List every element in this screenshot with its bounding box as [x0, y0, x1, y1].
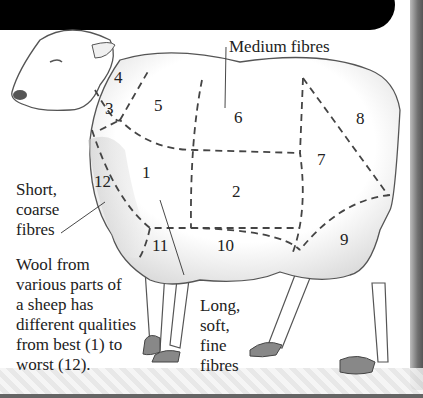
caption-line-6: worst (12). [16, 355, 136, 375]
region-8: 8 [356, 109, 365, 129]
long-line-3: fine [200, 336, 240, 356]
short-line-1: Short, [16, 180, 59, 200]
label-medium-fibres: Medium fibres [229, 38, 330, 55]
region-4: 4 [114, 68, 123, 88]
region-1: 1 [142, 163, 151, 183]
long-line-2: soft, [200, 316, 240, 336]
caption-line-5: from best (1) to [16, 335, 136, 355]
label-long-soft-fine-fibres: Long, soft, fine fibres [200, 296, 240, 376]
sheep-head [12, 30, 114, 110]
region-3: 3 [105, 99, 114, 119]
caption-line-4: different qualities [16, 315, 136, 335]
short-line-3: fibres [16, 220, 59, 240]
long-line-1: Long, [200, 296, 240, 316]
caption-line-2: various parts of [16, 275, 136, 295]
region-10: 10 [217, 236, 234, 256]
caption-line-1: Wool from [16, 255, 136, 275]
region-9: 9 [340, 230, 349, 250]
region-11: 11 [152, 236, 168, 256]
region-7: 7 [317, 150, 326, 170]
region-12: 12 [94, 172, 111, 192]
long-line-4: fibres [200, 356, 240, 376]
region-2: 2 [232, 182, 241, 202]
caption-line-3: a sheep has [16, 295, 136, 315]
region-6: 6 [234, 108, 243, 128]
region-5: 5 [154, 96, 163, 116]
short-line-2: coarse [16, 200, 59, 220]
caption-wool-quality: Wool from various parts of a sheep has d… [16, 255, 136, 375]
label-short-coarse-fibres: Short, coarse fibres [16, 180, 59, 240]
